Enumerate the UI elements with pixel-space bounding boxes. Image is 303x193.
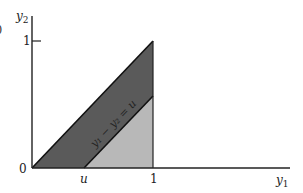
x-tick-label-1: 1 <box>150 172 158 186</box>
diagram: ) y2 1 0 u 1 y1 y₁ − y₂ = u <box>0 0 303 193</box>
origin-label: 0 <box>19 162 27 176</box>
y-axis-label: y2 <box>15 9 29 25</box>
x-tick-label-u: u <box>80 172 88 186</box>
partial-left-glyph: ) <box>0 23 2 36</box>
x-axis-label: y1 <box>275 173 289 189</box>
y-tick-label-1: 1 <box>23 34 31 48</box>
